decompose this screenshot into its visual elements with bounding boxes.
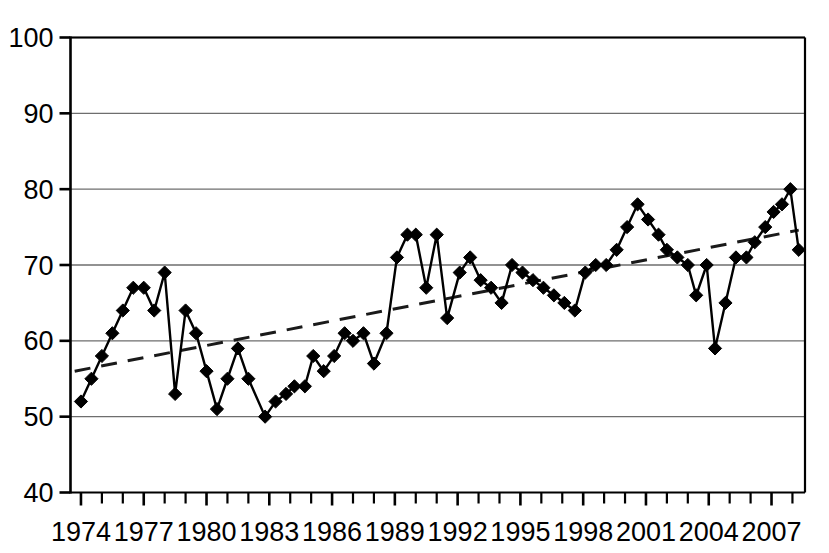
trend-line-series	[75, 230, 799, 371]
data-point-marker	[409, 228, 422, 241]
y-tick-label-40: 40	[23, 478, 53, 508]
data-point-markers	[74, 183, 805, 424]
data-point-marker	[792, 243, 805, 256]
y-tick-label-100: 100	[8, 23, 53, 53]
data-point-marker	[189, 327, 202, 340]
chart-figure: 405060708090100 197419771980198319861989…	[0, 0, 829, 553]
data-point-marker	[137, 281, 150, 294]
data-point-marker	[210, 402, 223, 415]
figure-caption	[0, 541, 829, 553]
x-axis-ticks	[81, 493, 792, 506]
linear-trend-line	[75, 230, 799, 371]
data-point-marker	[621, 220, 634, 233]
data-point-marker	[708, 342, 721, 355]
data-point-marker	[95, 349, 108, 362]
y-axis-tick-labels: 405060708090100	[8, 23, 53, 508]
data-point-marker	[74, 395, 87, 408]
data-point-marker	[179, 304, 192, 317]
data-point-marker	[169, 387, 182, 400]
data-point-marker	[430, 228, 443, 241]
observed-line-series	[81, 189, 799, 417]
data-point-marker	[231, 342, 244, 355]
data-point-marker	[380, 327, 393, 340]
y-tick-label-90: 90	[23, 99, 53, 129]
data-point-marker	[116, 304, 129, 317]
data-point-marker	[700, 258, 713, 271]
data-point-marker	[690, 289, 703, 302]
data-point-marker	[221, 372, 234, 385]
data-point-marker	[367, 357, 380, 370]
y-tick-label-80: 80	[23, 175, 53, 205]
data-point-marker	[784, 183, 797, 196]
observed-polyline	[81, 189, 799, 417]
data-point-marker	[106, 327, 119, 340]
y-tick-label-60: 60	[23, 326, 53, 356]
data-point-marker	[158, 266, 171, 279]
line-chart-plot: 405060708090100 197419771980198319861989…	[0, 0, 829, 553]
data-point-marker	[298, 380, 311, 393]
y-tick-label-70: 70	[23, 251, 53, 281]
data-point-marker	[200, 365, 213, 378]
data-point-marker	[148, 304, 161, 317]
y-tick-label-50: 50	[23, 402, 53, 432]
data-point-marker	[390, 251, 403, 264]
gridlines	[71, 38, 806, 417]
data-point-marker	[441, 311, 454, 324]
data-point-marker	[719, 296, 732, 309]
data-point-marker	[85, 372, 98, 385]
data-point-marker	[420, 281, 433, 294]
data-point-marker	[740, 251, 753, 264]
data-point-marker	[242, 372, 255, 385]
